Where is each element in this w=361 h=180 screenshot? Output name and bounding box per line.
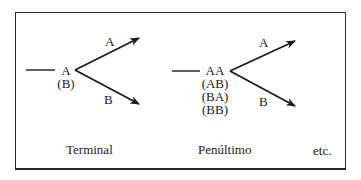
terminal-node-labels: A (B)	[56, 64, 76, 90]
penultimo-node-labels: AA (AB) (BA) (BB)	[200, 64, 230, 116]
tree-diagram-graphics	[0, 0, 361, 180]
terminal-node-label: (B)	[56, 77, 76, 90]
terminal-caption: Terminal	[66, 142, 113, 158]
penultimo-caption: Penúltimo	[198, 142, 251, 158]
penultimo-branch-a-label: A	[259, 36, 268, 49]
penultimo-node-label: (BB)	[200, 103, 230, 116]
terminal-branch-a-label: A	[105, 35, 114, 48]
etc-text: etc.	[313, 143, 331, 159]
terminal-branch-b-label: B	[104, 93, 113, 106]
penultimo-branch-b-label: B	[259, 95, 268, 108]
